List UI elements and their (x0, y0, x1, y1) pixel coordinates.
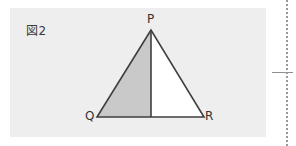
page-canvas: 図2 P Q R (0, 0, 296, 146)
vertex-label-q: Q (85, 110, 94, 122)
vertex-label-r: R (205, 110, 213, 122)
edge-tick-mark (272, 72, 293, 73)
dotted-page-edge (286, 0, 288, 146)
vertex-label-p: P (147, 13, 154, 25)
